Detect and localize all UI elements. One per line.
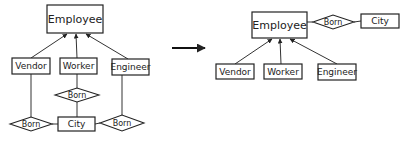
entity-vendor-after[interactable]: Vendor bbox=[216, 64, 254, 79]
entity-label: City bbox=[68, 119, 86, 129]
entity-vendor-before[interactable]: Vendor bbox=[12, 58, 50, 74]
isa-arrow-engineer bbox=[290, 39, 337, 64]
after-diagram: Employee Born City Vendor Worker Enginee… bbox=[216, 12, 399, 80]
entity-employee-before[interactable]: Employee bbox=[47, 5, 103, 33]
relationship-label: Born bbox=[324, 18, 343, 27]
entity-label: Employee bbox=[48, 13, 103, 26]
entity-employee-after[interactable]: Employee bbox=[252, 12, 307, 38]
isa-arrow-engineer bbox=[86, 34, 128, 59]
entity-worker-after[interactable]: Worker bbox=[264, 64, 302, 79]
isa-arrow-worker bbox=[76, 34, 77, 58]
entity-label: City bbox=[371, 16, 389, 26]
er-diagram-canvas: Employee Vendor Worker Engineer Born Bor… bbox=[0, 0, 407, 145]
relationship-born-engineer[interactable]: Born bbox=[100, 115, 144, 131]
entity-engineer-before[interactable]: Engineer bbox=[110, 59, 150, 75]
relationship-born-after[interactable]: Born bbox=[313, 15, 354, 29]
entity-worker-before[interactable]: Worker bbox=[60, 58, 97, 74]
entity-label: Worker bbox=[63, 61, 95, 71]
isa-arrow-worker bbox=[280, 39, 281, 64]
before-diagram: Employee Vendor Worker Engineer Born Bor… bbox=[10, 5, 151, 131]
entity-label: Worker bbox=[267, 67, 299, 77]
entity-label: Employee bbox=[252, 19, 307, 32]
relationship-born-worker[interactable]: Born bbox=[55, 88, 99, 102]
entity-label: Vendor bbox=[219, 67, 251, 77]
isa-arrow-vendor bbox=[235, 39, 272, 64]
entity-label: Engineer bbox=[110, 62, 150, 72]
relationship-label: Born bbox=[22, 120, 41, 129]
entity-engineer-after[interactable]: Engineer bbox=[317, 64, 357, 80]
entity-city-after[interactable]: City bbox=[361, 14, 399, 28]
relationship-label: Born bbox=[68, 91, 87, 100]
entity-label: Engineer bbox=[317, 67, 357, 77]
entity-city-before[interactable]: City bbox=[58, 117, 95, 131]
relationship-born-vendor[interactable]: Born bbox=[10, 117, 52, 131]
isa-arrow-vendor bbox=[31, 34, 67, 58]
relationship-label: Born bbox=[113, 119, 132, 128]
entity-label: Vendor bbox=[15, 61, 47, 71]
